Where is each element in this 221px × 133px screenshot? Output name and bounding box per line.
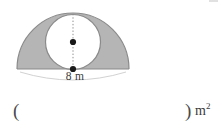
answer-input[interactable]: [26, 101, 188, 123]
diameter-label: 8 m: [55, 70, 95, 82]
corner-artifact: [209, 0, 218, 7]
answer-row: ( ) m2: [0, 99, 221, 129]
close-paren: ): [185, 101, 191, 120]
unit-exponent: 2: [206, 101, 211, 111]
geometry-problem-figure: 8 m ( ) m2: [0, 0, 221, 133]
inner-circle-center-dot: [70, 39, 76, 45]
unit-label: m2: [195, 103, 210, 119]
unit-base: m: [195, 103, 206, 118]
open-paren: (: [13, 101, 19, 120]
